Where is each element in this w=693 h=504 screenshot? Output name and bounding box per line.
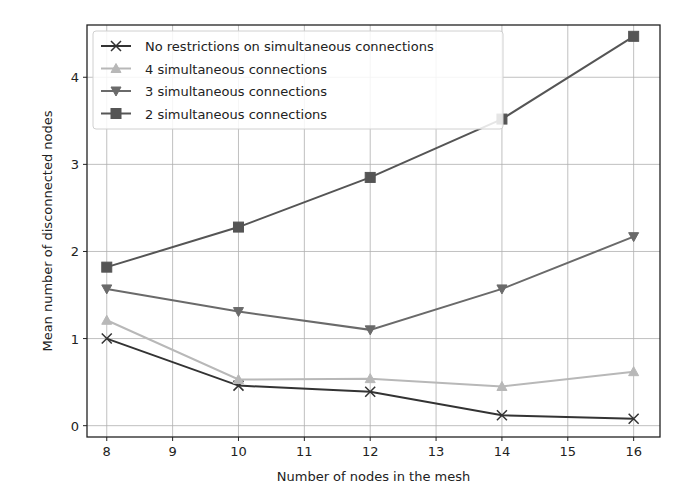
data-point-marker bbox=[102, 315, 112, 324]
y-tick-label: 0 bbox=[71, 419, 79, 434]
data-point-marker bbox=[233, 222, 243, 232]
legend-label: 4 simultaneous connections bbox=[145, 62, 327, 77]
x-axis-label: Number of nodes in the mesh bbox=[277, 469, 471, 484]
x-tick-label: 14 bbox=[494, 444, 511, 459]
x-tick-label: 15 bbox=[560, 444, 577, 459]
data-point-marker bbox=[102, 262, 112, 272]
legend: No restrictions on simultaneous connecti… bbox=[93, 31, 503, 129]
y-tick-label: 1 bbox=[71, 332, 79, 347]
y-tick-label: 2 bbox=[71, 244, 79, 259]
x-tick-label: 16 bbox=[625, 444, 642, 459]
y-tick-label: 3 bbox=[71, 157, 79, 172]
legend-label: 2 simultaneous connections bbox=[145, 107, 327, 122]
x-tick-label: 13 bbox=[428, 444, 445, 459]
data-point-marker bbox=[365, 172, 375, 182]
y-tick-label: 4 bbox=[71, 70, 79, 85]
x-tick-label: 11 bbox=[296, 444, 313, 459]
line-chart: 891011121314151601234 Number of nodes in… bbox=[0, 0, 693, 504]
y-axis-label: Mean number of disconnected nodes bbox=[40, 110, 55, 351]
x-tick-label: 12 bbox=[362, 444, 379, 459]
legend-item: No restrictions on simultaneous connecti… bbox=[101, 39, 434, 54]
legend-label: No restrictions on simultaneous connecti… bbox=[145, 39, 434, 54]
x-tick-label: 10 bbox=[230, 444, 247, 459]
x-tick-label: 9 bbox=[168, 444, 176, 459]
data-point-marker bbox=[629, 31, 639, 41]
legend-label: 3 simultaneous connections bbox=[145, 84, 327, 99]
legend-marker bbox=[111, 109, 121, 119]
x-tick-label: 8 bbox=[103, 444, 111, 459]
